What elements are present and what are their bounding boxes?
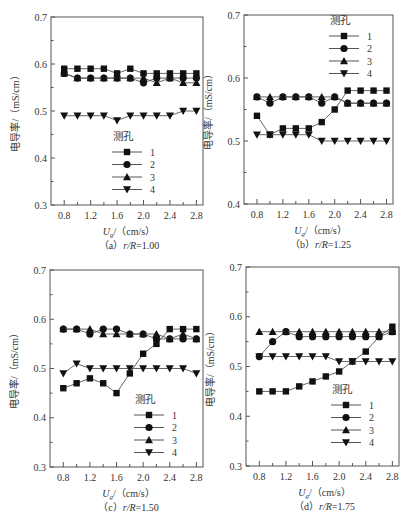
x-tick-label: 2.4 bbox=[359, 471, 372, 482]
square-marker-icon bbox=[60, 385, 66, 391]
y-tick-label: 0.7 bbox=[230, 262, 243, 273]
circle-legend-icon bbox=[340, 45, 347, 52]
square-marker-icon bbox=[256, 388, 262, 394]
square-legend-icon bbox=[343, 402, 349, 408]
x-tick-label: 1.6 bbox=[306, 471, 319, 482]
y-tick-label: 0.4 bbox=[34, 412, 47, 423]
legend-item-3: 3 bbox=[134, 435, 177, 446]
x-tick-label: 2.4 bbox=[354, 209, 367, 220]
square-marker-icon bbox=[113, 390, 119, 396]
square-marker-icon bbox=[101, 66, 107, 72]
y-tick-label: 0.5 bbox=[35, 106, 48, 117]
legend-item-1: 1 bbox=[134, 410, 177, 421]
x-tick-label: 2.8 bbox=[380, 209, 393, 220]
x-tick-label: 2.0 bbox=[137, 210, 150, 221]
legend-label: 2 bbox=[172, 422, 177, 433]
x-axis-label: Ug/（cm/s） bbox=[103, 226, 155, 239]
legend-item-4: 4 bbox=[331, 437, 374, 448]
x-tick-label: 2.4 bbox=[163, 472, 176, 483]
square-marker-icon bbox=[293, 125, 299, 131]
square-marker-icon bbox=[87, 375, 93, 381]
legend-title: 测孔 bbox=[135, 393, 156, 405]
x-tick-label: 1.2 bbox=[84, 472, 97, 483]
square-marker-icon bbox=[74, 66, 80, 72]
y-tick-label: 0.3 bbox=[34, 462, 47, 473]
legend-item-2: 2 bbox=[134, 422, 177, 433]
y-axis-label: 电导率/（mS/cm） bbox=[8, 328, 20, 409]
panel-caption: （d）r/R=1.75 bbox=[294, 501, 355, 512]
square-marker-icon bbox=[87, 66, 93, 72]
square-marker-icon bbox=[140, 351, 146, 357]
legend-item-3: 3 bbox=[112, 172, 155, 183]
square-marker-icon bbox=[331, 106, 337, 112]
legend-label: 1 bbox=[150, 147, 155, 158]
legend-label: 2 bbox=[150, 159, 155, 170]
square-marker-icon bbox=[344, 87, 350, 93]
square-marker-icon bbox=[283, 388, 289, 394]
y-axis-label: 电导率/（mS/cm） bbox=[202, 69, 214, 150]
series-3 bbox=[255, 328, 396, 335]
legend-label: 3 bbox=[172, 435, 177, 446]
legend-label: 4 bbox=[369, 437, 374, 448]
x-tick-label: 2.4 bbox=[164, 210, 177, 221]
x-tick-label: 1.6 bbox=[111, 210, 124, 221]
panel-caption: （c）r/R=1.50 bbox=[98, 502, 158, 513]
x-tick-label: 2.8 bbox=[190, 210, 203, 221]
legend-label: 4 bbox=[150, 184, 155, 195]
panel-a: 0.30.40.50.60.70.81.21.62.02.42.8电导率/（mS… bbox=[9, 12, 203, 252]
square-marker-icon bbox=[309, 378, 315, 384]
y-tick-label: 0.5 bbox=[230, 361, 243, 372]
circle-legend-icon bbox=[145, 424, 152, 431]
square-legend-icon bbox=[341, 33, 347, 39]
square-marker-icon bbox=[73, 380, 79, 386]
x-axis-label: Ug/（cm/s） bbox=[294, 225, 346, 238]
circle-legend-icon bbox=[123, 161, 130, 168]
square-marker-icon bbox=[167, 326, 173, 332]
square-marker-icon bbox=[100, 380, 106, 386]
legend-item-4: 4 bbox=[329, 68, 372, 79]
x-tick-label: 2.8 bbox=[190, 472, 203, 483]
legend: 测孔1234 bbox=[134, 393, 177, 458]
square-marker-icon bbox=[357, 87, 363, 93]
square-marker-icon bbox=[323, 373, 329, 379]
square-marker-icon bbox=[336, 368, 342, 374]
x-tick-label: 0.8 bbox=[57, 472, 70, 483]
legend-label: 2 bbox=[367, 43, 372, 54]
x-tick-label: 2.0 bbox=[328, 209, 341, 220]
legend-item-1: 1 bbox=[112, 147, 155, 158]
square-marker-icon bbox=[193, 326, 199, 332]
y-axis-label: 电导率/（mS/cm） bbox=[204, 326, 216, 407]
square-legend-icon bbox=[124, 149, 130, 155]
triangle-down-marker-icon bbox=[59, 370, 67, 377]
y-tick-label: 0.7 bbox=[34, 265, 47, 276]
legend-item-1: 1 bbox=[331, 400, 374, 411]
y-tick-label: 0.7 bbox=[35, 12, 48, 23]
square-marker-icon bbox=[254, 113, 260, 119]
legend-label: 3 bbox=[150, 172, 155, 183]
square-marker-icon bbox=[319, 119, 325, 125]
legend-item-2: 2 bbox=[329, 43, 372, 54]
legend-item-3: 3 bbox=[329, 56, 372, 67]
x-tick-label: 0.8 bbox=[251, 209, 264, 220]
square-marker-icon bbox=[280, 125, 286, 131]
legend: 测孔1234 bbox=[331, 383, 374, 448]
chart-canvas: 0.30.40.50.60.70.81.21.62.02.42.8电导率/（mS… bbox=[0, 0, 411, 522]
panel-d: 0.30.40.50.60.70.81.21.62.02.42.8电导率/（mS… bbox=[204, 262, 399, 513]
y-tick-label: 0.6 bbox=[228, 73, 241, 84]
y-tick-label: 0.5 bbox=[34, 363, 47, 374]
square-marker-icon bbox=[383, 87, 389, 93]
y-tick-label: 0.4 bbox=[230, 411, 243, 422]
y-tick-label: 0.4 bbox=[228, 199, 241, 210]
y-tick-label: 0.4 bbox=[35, 153, 48, 164]
x-axis-label: Ug/（cm/s） bbox=[298, 487, 350, 500]
x-tick-label: 2.8 bbox=[386, 471, 399, 482]
x-tick-label: 1.2 bbox=[84, 210, 97, 221]
legend-label: 1 bbox=[172, 410, 177, 421]
panel-b: 0.40.50.60.70.81.21.62.02.42.8电导率/（mS/cm… bbox=[202, 10, 393, 251]
legend-label: 3 bbox=[369, 425, 374, 436]
panel-caption: （a）r/R=1.00 bbox=[99, 240, 159, 251]
square-marker-icon bbox=[296, 383, 302, 389]
legend-item-2: 2 bbox=[112, 159, 155, 170]
figure-2x2-conductivity-panels: 0.30.40.50.60.70.81.21.62.02.42.8电导率/（mS… bbox=[0, 0, 411, 522]
panel-caption: （b）r/R=1.25 bbox=[290, 239, 351, 250]
